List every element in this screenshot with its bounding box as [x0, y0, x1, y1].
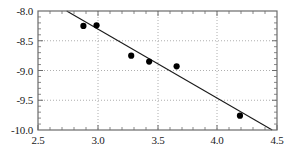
data-point: [146, 58, 152, 64]
y-tick-label-1: -8.0: [0, 6, 33, 17]
x-tick-label-4: 4.0: [210, 135, 223, 146]
y-tick-label-5: -10.0: [0, 125, 33, 136]
chart-figure: -8.0 -8.5 -9.0 -9.5 -10.0 2.5 3.0 3.5 4.…: [0, 0, 289, 159]
x-tick-label-2: 3.0: [91, 135, 104, 146]
y-tick-label-4: -9.5: [0, 95, 33, 106]
x-tick-label-5: 4.5: [270, 135, 283, 146]
data-point: [128, 53, 134, 59]
data-point: [174, 63, 180, 69]
y-tick-label-3: -9.0: [0, 65, 33, 76]
data-point: [93, 22, 99, 28]
data-point: [80, 23, 86, 29]
x-tick-label-1: 2.5: [31, 135, 44, 146]
data-point: [237, 113, 243, 119]
y-tick-label-2: -8.5: [0, 35, 33, 46]
x-tick-label-3: 3.5: [151, 135, 164, 146]
